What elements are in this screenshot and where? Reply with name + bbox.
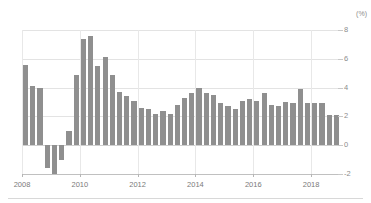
bar[interactable] <box>88 36 93 145</box>
y-tick-label: -2 <box>344 170 351 178</box>
bar[interactable] <box>153 114 158 146</box>
bar[interactable] <box>218 103 223 145</box>
bar[interactable] <box>196 88 201 146</box>
gridline-y-8 <box>22 30 340 31</box>
plot-area <box>22 30 340 174</box>
gridline-x-2010 <box>80 30 81 174</box>
bar[interactable] <box>240 101 245 146</box>
bar[interactable] <box>168 114 173 146</box>
bar[interactable] <box>110 75 115 146</box>
footer-divider <box>8 198 363 199</box>
bar[interactable] <box>247 99 252 145</box>
x-tick-label: 2008 <box>14 180 31 189</box>
gridline-y-6 <box>22 59 340 60</box>
x-tick-label: 2010 <box>71 180 88 189</box>
chart-container: (%) 86420-2200820102012201420162018 <box>0 0 371 203</box>
bar[interactable] <box>66 131 71 145</box>
bar[interactable] <box>182 98 187 146</box>
bar[interactable] <box>160 111 165 146</box>
bar[interactable] <box>175 105 180 145</box>
gridline-y-0 <box>22 145 340 146</box>
bar[interactable] <box>52 145 57 174</box>
bar[interactable] <box>59 145 64 159</box>
y-tick-mark-6 <box>338 59 343 60</box>
gridline-x-2016 <box>253 30 254 174</box>
bar[interactable] <box>204 93 209 145</box>
y-axis-unit-label: (%) <box>356 9 367 18</box>
bar[interactable] <box>319 103 324 145</box>
y-tick-label: 0 <box>344 141 348 149</box>
y-tick-mark--2 <box>338 174 343 175</box>
bar[interactable] <box>254 101 259 146</box>
bar[interactable] <box>81 39 86 146</box>
bar[interactable] <box>139 108 144 145</box>
bar[interactable] <box>30 86 35 145</box>
x-tick-label: 2014 <box>187 180 204 189</box>
bar[interactable] <box>283 102 288 145</box>
bar[interactable] <box>262 93 267 145</box>
bar[interactable] <box>334 115 339 145</box>
bar[interactable] <box>74 75 79 146</box>
x-tick-mark-2018 <box>311 174 312 177</box>
bar[interactable] <box>103 57 108 145</box>
bar[interactable] <box>189 93 194 145</box>
y-tick-label: 8 <box>344 26 348 34</box>
gridline-y-4 <box>22 88 340 89</box>
x-axis-line <box>22 174 340 175</box>
y-tick-label: 6 <box>344 55 348 63</box>
bar[interactable] <box>131 101 136 146</box>
bar[interactable] <box>95 66 100 145</box>
y-tick-mark-4 <box>338 88 343 89</box>
y-tick-mark-2 <box>338 116 343 117</box>
x-tick-mark-2014 <box>195 174 196 177</box>
bar[interactable] <box>290 103 295 145</box>
bar[interactable] <box>117 92 122 145</box>
bar[interactable] <box>211 95 216 145</box>
bar[interactable] <box>23 65 28 146</box>
x-tick-mark-2010 <box>80 174 81 177</box>
gridline-x-2012 <box>138 30 139 174</box>
bar[interactable] <box>312 103 317 145</box>
bar[interactable] <box>305 103 310 145</box>
x-tick-label: 2018 <box>303 180 320 189</box>
y-tick-label: 4 <box>344 84 348 92</box>
x-tick-mark-2016 <box>253 174 254 177</box>
y-tick-mark-0 <box>338 145 343 146</box>
bar[interactable] <box>233 109 238 145</box>
gridline-x-2014 <box>195 30 196 174</box>
x-tick-mark-2008 <box>22 174 23 177</box>
y-tick-label: 2 <box>344 112 348 120</box>
bar[interactable] <box>327 115 332 145</box>
x-tick-label: 2016 <box>245 180 262 189</box>
bar[interactable] <box>37 88 42 146</box>
x-tick-label: 2012 <box>129 180 146 189</box>
bar[interactable] <box>269 105 274 145</box>
bar[interactable] <box>298 89 303 145</box>
gridline-x-2008 <box>22 30 23 174</box>
y-tick-mark-8 <box>338 30 343 31</box>
x-tick-mark-2012 <box>138 174 139 177</box>
bar[interactable] <box>276 106 281 145</box>
bar[interactable] <box>225 106 230 145</box>
bar[interactable] <box>124 96 129 145</box>
bar[interactable] <box>146 109 151 145</box>
gridline-x-2018 <box>311 30 312 174</box>
bar[interactable] <box>45 145 50 168</box>
